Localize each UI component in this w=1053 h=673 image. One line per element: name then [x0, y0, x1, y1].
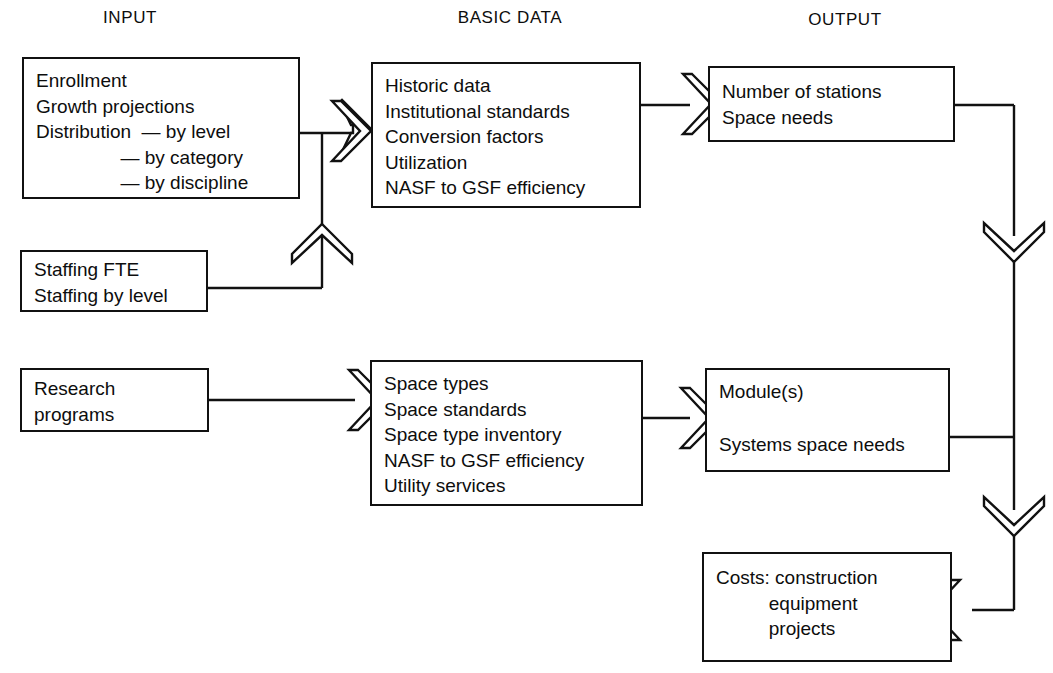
basic-data-line-4: Utilization: [385, 150, 633, 176]
staffing-box[interactable]: Staffing FTE Staffing by level: [20, 250, 208, 312]
space-types-line-4: NASF to GSF efficiency: [384, 448, 635, 474]
chevron-up-into-junction: [292, 224, 352, 263]
basic-data-line-3: Conversion factors: [385, 124, 633, 150]
enrollment-box[interactable]: Enrollment Growth projections Distributi…: [22, 57, 300, 199]
enrollment-line-4: — by category: [36, 145, 292, 171]
basic-data-box[interactable]: Historic data Institutional standards Co…: [371, 62, 641, 208]
modules-box[interactable]: Module(s) Systems space needs: [705, 368, 950, 472]
basic-data-line-2: Institutional standards: [385, 99, 633, 125]
basic-data-line-1: Historic data: [385, 73, 633, 99]
stations-line-2: Space needs: [722, 105, 947, 131]
staffing-line-2: Staffing by level: [34, 283, 200, 309]
space-types-box[interactable]: Space types Space standards Space type i…: [370, 360, 643, 506]
space-types-line-5: Utility services: [384, 473, 635, 499]
chevron-right-into-basic-data-shape: [332, 101, 371, 161]
research-line-2: programs: [34, 402, 201, 428]
enrollment-line-1: Enrollment: [36, 68, 292, 94]
space-types-line-1: Space types: [384, 371, 635, 397]
space-types-line-3: Space type inventory: [384, 422, 635, 448]
enrollment-line-5: — by discipline: [36, 170, 292, 196]
research-programs-box[interactable]: Research programs: [20, 368, 209, 432]
modules-line-2: Systems space needs: [719, 432, 942, 458]
research-line-1: Research: [34, 376, 201, 402]
costs-line-2: equipment: [716, 591, 944, 617]
column-header-output: OUTPUT: [780, 10, 910, 30]
costs-line-3: projects: [716, 616, 944, 642]
stations-line-1: Number of stations: [722, 79, 947, 105]
space-types-line-2: Space standards: [384, 397, 635, 423]
enrollment-line-2: Growth projections: [36, 94, 292, 120]
chevron-down-rail-lower: [984, 497, 1044, 536]
column-header-input: INPUT: [70, 8, 190, 28]
costs-line-1: Costs: construction: [716, 565, 944, 591]
costs-box[interactable]: Costs: construction equipment projects: [702, 552, 952, 662]
staffing-line-1: Staffing FTE: [34, 257, 200, 283]
chevron-down-rail-upper: [984, 223, 1044, 262]
modules-line-spacer: [719, 405, 942, 432]
enrollment-line-3: Distribution — by level: [36, 119, 292, 145]
number-of-stations-box[interactable]: Number of stations Space needs: [708, 66, 955, 142]
basic-data-line-5: NASF to GSF efficiency: [385, 175, 633, 201]
flowchart-canvas: INPUT BASIC DATA OUTPUT: [0, 0, 1053, 673]
modules-line-1: Module(s): [719, 379, 942, 405]
chevron-right-into-basic-data: [340, 100, 371, 158]
column-header-basic-data: BASIC DATA: [430, 8, 590, 28]
